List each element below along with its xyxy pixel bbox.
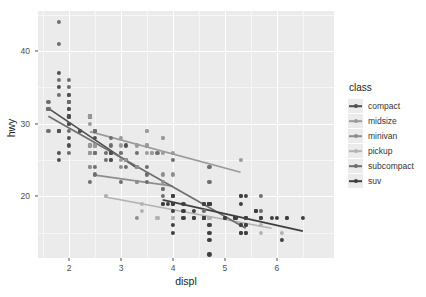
legend-key-dot [353, 104, 357, 108]
x-axis-tick-label: 5 [223, 263, 228, 273]
y-axis-tick-label: 40 [14, 46, 30, 56]
legend-item-label: midsize [368, 116, 397, 126]
data-point [109, 151, 113, 155]
legend-key-swatch [348, 159, 363, 173]
legend-item-label: pickup [368, 146, 393, 156]
data-point [57, 71, 61, 75]
data-point [301, 216, 305, 220]
data-point [67, 78, 71, 82]
data-points-layer [38, 11, 334, 258]
data-point [88, 114, 92, 118]
data-point [57, 92, 61, 96]
data-point [57, 78, 61, 82]
data-point [77, 129, 81, 133]
legend: class compactmidsizeminivanpickupsubcomp… [348, 82, 414, 189]
legend-item-midsize[interactable]: midsize [348, 114, 414, 128]
data-point [46, 100, 50, 104]
data-point [275, 216, 279, 220]
data-point [119, 151, 123, 155]
data-point [135, 180, 139, 184]
data-point [57, 42, 61, 46]
data-point [207, 201, 211, 205]
x-axis-tick-label: 4 [171, 263, 176, 273]
y-axis-title: hwy [5, 108, 17, 148]
data-point [93, 151, 97, 155]
legend-key-dot [353, 134, 357, 138]
data-point [171, 230, 175, 234]
legend-item-suv[interactable]: suv [348, 174, 414, 188]
data-point [270, 216, 274, 220]
data-point [109, 143, 113, 147]
data-point [202, 201, 206, 205]
x-axis-tick-mark [276, 258, 277, 261]
data-point [202, 209, 206, 213]
data-point [67, 151, 71, 155]
data-point [259, 194, 263, 198]
data-point [145, 151, 149, 155]
x-axis-tick-label: 6 [275, 263, 280, 273]
legend-key-swatch [348, 99, 363, 113]
data-point [67, 85, 71, 89]
data-point [124, 165, 128, 169]
data-point [109, 136, 113, 140]
data-point [161, 180, 165, 184]
data-point [238, 158, 242, 162]
legend-key-swatch [348, 174, 363, 188]
data-point [161, 172, 165, 176]
data-point [244, 223, 248, 227]
data-point [161, 201, 165, 205]
data-point [161, 136, 165, 140]
y-axis-tick-mark [35, 196, 38, 197]
data-point [207, 230, 211, 234]
data-point [238, 201, 242, 205]
data-point [67, 107, 71, 111]
data-point [155, 216, 159, 220]
data-point [93, 172, 97, 176]
data-point [124, 143, 128, 147]
data-point [150, 151, 154, 155]
legend-key-dot [353, 164, 357, 168]
legend-item-label: compact [368, 101, 400, 111]
data-point [166, 201, 170, 205]
legend-item-pickup[interactable]: pickup [348, 144, 414, 158]
legend-item-minivan[interactable]: minivan [348, 129, 414, 143]
data-point [280, 230, 284, 234]
data-point [119, 180, 123, 184]
data-point [103, 151, 107, 155]
data-point [181, 216, 185, 220]
data-point [244, 230, 248, 234]
data-point [46, 107, 50, 111]
data-point [67, 122, 71, 126]
data-point [171, 151, 175, 155]
data-point [171, 216, 175, 220]
data-point [67, 114, 71, 118]
data-point [135, 151, 139, 155]
data-point [207, 180, 211, 184]
data-point [280, 238, 284, 242]
legend-key-dot [353, 179, 357, 183]
legend-title: class [348, 82, 414, 93]
data-point [67, 92, 71, 96]
data-point [254, 209, 258, 213]
data-point [88, 143, 92, 147]
x-axis-tick-mark [173, 258, 174, 261]
legend-item-subcompact[interactable]: subcompact [348, 159, 414, 173]
legend-key-swatch [348, 129, 363, 143]
data-point [171, 209, 175, 213]
x-axis-tick-mark [121, 258, 122, 261]
data-point [259, 223, 263, 227]
data-point [103, 158, 107, 162]
data-point [57, 158, 61, 162]
legend-item-label: minivan [368, 131, 397, 141]
data-point [259, 230, 263, 234]
data-point [259, 209, 263, 213]
data-point [238, 230, 242, 234]
data-point [259, 216, 263, 220]
data-point [145, 165, 149, 169]
data-point [223, 216, 227, 220]
scatter-plot-figure: 20304023456 displ hwy class compactmidsi… [0, 0, 426, 297]
legend-item-compact[interactable]: compact [348, 99, 414, 113]
data-point [171, 194, 175, 198]
data-point [238, 223, 242, 227]
data-point [238, 194, 242, 198]
